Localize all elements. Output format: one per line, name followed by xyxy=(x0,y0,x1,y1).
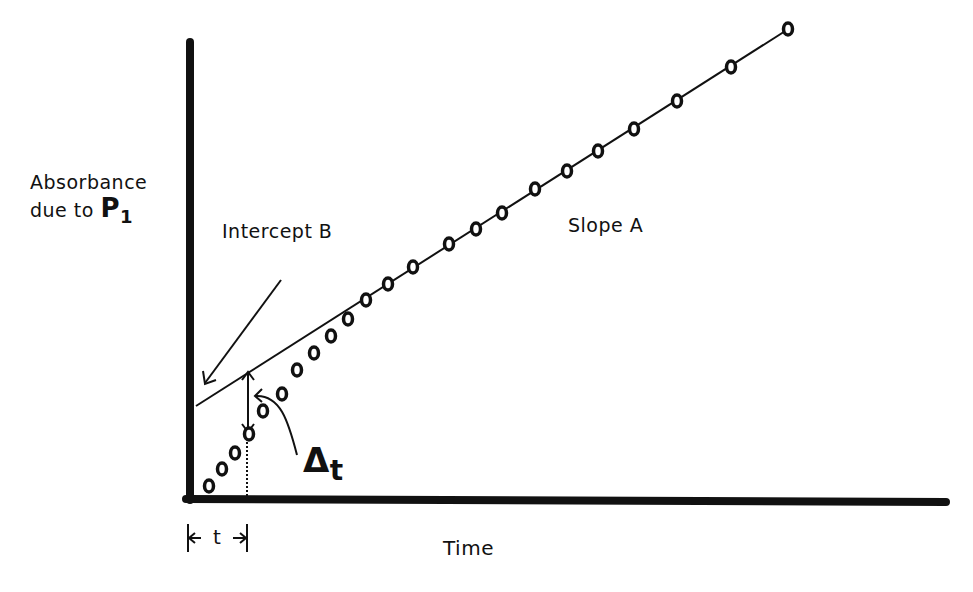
data-point xyxy=(362,294,371,306)
data-point xyxy=(472,223,481,235)
data-point xyxy=(245,428,254,440)
linear-fit-line xyxy=(196,28,790,406)
data-points xyxy=(205,23,793,492)
data-point xyxy=(445,238,454,250)
data-point xyxy=(498,207,507,219)
data-point xyxy=(293,364,302,376)
p-subscript: 1 xyxy=(120,206,133,227)
data-point xyxy=(563,165,572,177)
data-point xyxy=(310,347,319,359)
data-point xyxy=(231,447,240,459)
kinetics-diagram xyxy=(0,0,973,592)
data-point xyxy=(630,123,639,135)
data-point xyxy=(784,23,793,35)
data-point xyxy=(278,388,287,400)
data-point xyxy=(531,183,540,195)
data-point xyxy=(259,405,268,417)
data-point xyxy=(594,145,603,157)
delta-arrow xyxy=(242,372,254,432)
data-point xyxy=(384,278,393,290)
y-axis-label-line1: Absorbance xyxy=(30,170,147,194)
data-point xyxy=(409,261,418,273)
slope-label: Slope A xyxy=(568,213,643,237)
y-axis-label-line2: due to P1 xyxy=(30,196,147,223)
x-axis xyxy=(186,499,946,502)
data-point xyxy=(727,61,736,73)
data-point xyxy=(327,330,336,342)
data-point xyxy=(344,313,353,325)
intercept-label: Intercept B xyxy=(222,219,332,243)
p-symbol: P xyxy=(100,193,120,223)
delta-subscript: t xyxy=(330,454,344,487)
delta-label: Δt xyxy=(303,448,344,477)
data-point xyxy=(205,480,214,492)
intercept-arrow xyxy=(203,280,281,384)
delta-symbol: Δ xyxy=(303,440,330,480)
data-point xyxy=(673,95,682,107)
x-axis-label: Time xyxy=(443,536,494,560)
data-point xyxy=(218,463,227,475)
lag-time-label: t xyxy=(213,525,221,549)
y-axis-label: Absorbance due to P1 xyxy=(30,170,147,223)
